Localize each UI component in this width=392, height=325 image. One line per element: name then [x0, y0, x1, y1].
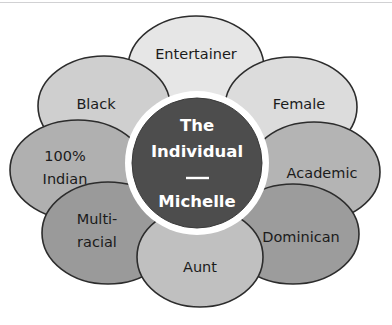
petal-academic-label: Academic — [287, 165, 358, 181]
petal-100-percent-indian-label-line1: 100% — [44, 148, 85, 164]
core-circle-group[interactable]: The Individual Michelle — [125, 91, 269, 235]
petal-black-label: Black — [76, 96, 116, 112]
core-label-line3: Michelle — [158, 192, 235, 211]
flower-diagram-canvas: Entertainer Black Female 100% Indian Aca… — [0, 0, 392, 325]
petal-diagram: Entertainer Black Female 100% Indian Aca… — [0, 0, 392, 325]
core-label-line1: The — [180, 116, 214, 135]
petal-aunt-label: Aunt — [183, 259, 217, 275]
petal-multi-racial-label-line2: racial — [77, 234, 117, 250]
petal-entertainer-label: Entertainer — [155, 46, 237, 62]
petal-multi-racial-label-line1: Multi- — [77, 211, 118, 227]
petal-dominican-label: Dominican — [262, 229, 339, 245]
core-label-line2: Individual — [151, 142, 243, 161]
petal-female-label: Female — [273, 96, 326, 112]
petal-100-percent-indian-label-line2: Indian — [43, 171, 88, 187]
